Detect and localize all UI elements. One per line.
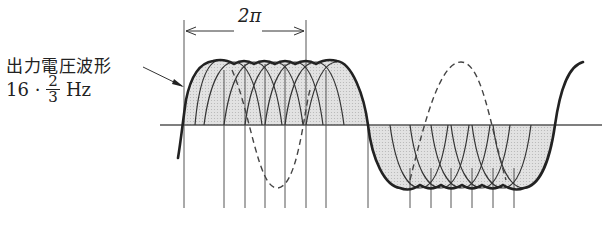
label-pointer-arrow bbox=[143, 67, 184, 87]
two-pi-dimension-arrow bbox=[186, 27, 304, 35]
two-pi-label: 2π bbox=[236, 5, 263, 26]
cycloconverter-waveform-diagram bbox=[0, 0, 611, 228]
